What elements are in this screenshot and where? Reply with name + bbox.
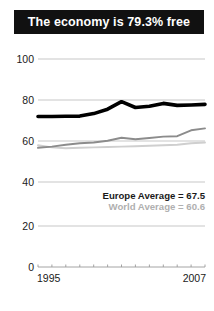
legend-europe-average: Europe Average = 67.5: [103, 190, 205, 201]
xtick-label-start: 1995: [37, 272, 60, 284]
economic-freedom-chart: The economy is 79.3% free 100 80 60 40 2…: [0, 0, 214, 311]
plot-area: [0, 0, 214, 311]
xtick-label-end: 2007: [183, 272, 206, 284]
legend-world-average: World Average = 60.6: [103, 201, 205, 212]
series-line-country: [38, 102, 205, 117]
chart-legend: Europe Average = 67.5 World Average = 60…: [103, 190, 205, 213]
